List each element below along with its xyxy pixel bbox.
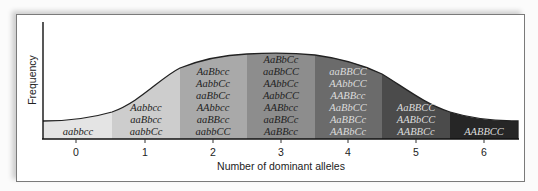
- x-axis-label: Number of dominant alleles: [217, 160, 345, 172]
- genotype-label: AaBBcc: [263, 126, 298, 137]
- tick-label-2: 2: [210, 146, 216, 158]
- genotype-label: AaBbCC: [328, 102, 367, 113]
- column-6-genotypes: AABBCC: [463, 126, 505, 137]
- genotype-label: aaBBCC: [329, 66, 367, 77]
- column-0-fill: [43, 40, 112, 140]
- tick-label-0: 0: [73, 146, 79, 158]
- genotype-label: aaBBcc: [197, 114, 230, 125]
- column-5-fill: [382, 40, 450, 140]
- genotype-label: AaBbCc: [263, 54, 299, 65]
- genotype-label: AAbbCc: [263, 78, 299, 89]
- genotype-label: AABbCC: [396, 114, 436, 125]
- genotype-label: AaBBCc: [329, 114, 366, 125]
- genotype-label: AaBBCC: [396, 102, 436, 113]
- genotype-label: aabbCc: [130, 126, 163, 137]
- genotype-label: AABBcc: [330, 90, 366, 101]
- column-1-genotypes: Aabbcc aaBbcc aabbCc: [129, 102, 162, 137]
- genotype-label: Aabbcc: [129, 102, 162, 113]
- column-0-genotypes: aabbcc: [63, 126, 94, 137]
- genotype-label: aabbCC: [195, 126, 231, 137]
- genotype-distribution-diagram: 0 1 2 3 4 5 6 Number of dominant alleles…: [0, 0, 538, 191]
- tick-label-3: 3: [278, 146, 284, 158]
- genotype-label: AABBCc: [396, 126, 435, 137]
- genotype-label: AAbbcc: [196, 102, 230, 113]
- column-6-fill: [450, 40, 518, 140]
- genotype-label: AABBCC: [463, 126, 505, 137]
- genotype-label: AAbbCC: [328, 78, 367, 89]
- tick-label-4: 4: [345, 146, 351, 158]
- column-1-fill: [112, 40, 180, 140]
- column-4-genotypes: aaBBCC AAbbCC AABBcc AaBbCC AaBBCc AABbC…: [328, 66, 367, 137]
- y-axis-label: Frequency: [26, 54, 38, 104]
- genotype-label: AabbCC: [262, 90, 300, 101]
- genotype-label: aaBBCc: [264, 114, 299, 125]
- column-3-genotypes: AaBbCc aaBbCC AAbbCc AabbCC AABbcc aaBBC…: [262, 54, 300, 137]
- genotype-label: aabbcc: [63, 126, 94, 137]
- genotype-label: AaBbcc: [196, 66, 230, 77]
- tick-label-5: 5: [413, 146, 419, 158]
- genotype-label: AABbcc: [263, 102, 298, 113]
- genotype-label: AabbCc: [195, 78, 230, 89]
- genotype-label: aaBbCC: [263, 66, 300, 77]
- column-5-genotypes: AaBBCC AABbCC AABBCc: [396, 102, 436, 137]
- tick-label-6: 6: [481, 146, 487, 158]
- column-2-genotypes: AaBbcc AabbCc aaBbCc AAbbcc aaBBcc aabbC…: [195, 66, 231, 137]
- genotype-label: aaBbCc: [196, 90, 230, 101]
- genotype-label: aaBbcc: [130, 114, 162, 125]
- x-tick-labels: 0 1 2 3 4 5 6: [73, 146, 487, 158]
- tick-label-1: 1: [142, 146, 148, 158]
- genotype-label: AABbCc: [329, 126, 366, 137]
